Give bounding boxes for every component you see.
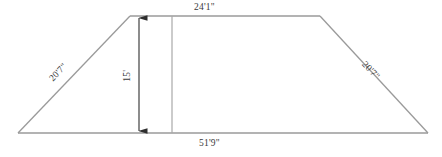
bottom-side-dimension-label: 51'9" — [199, 139, 220, 149]
left-side-line — [18, 16, 130, 133]
height-dimension-label: 15' — [123, 70, 133, 82]
top-side-dimension-label: 24'1" — [194, 3, 215, 13]
trapezoid-diagram: 24'1" 51'9" 20'7" 20'7" 15' — [0, 0, 442, 157]
